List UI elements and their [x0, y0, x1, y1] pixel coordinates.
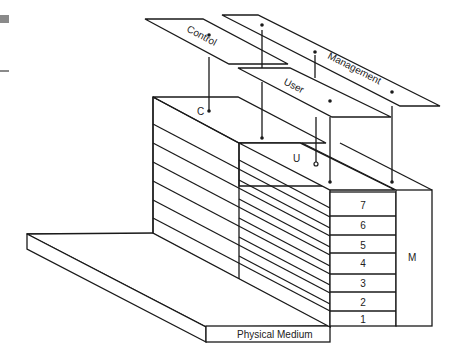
- scan-artifact-line: [0, 70, 9, 72]
- control-stack-label: C: [197, 106, 204, 117]
- physical-medium-label: Physical Medium: [237, 329, 313, 340]
- layer-3-label: 3: [360, 278, 366, 289]
- layer-5-label: 5: [360, 240, 366, 251]
- user-stack-label: U: [293, 153, 300, 164]
- layer-7-label: 7: [360, 200, 366, 211]
- layer-4-label: 4: [360, 258, 366, 269]
- scan-artifact-top: [0, 15, 9, 23]
- management-column-label: M: [408, 252, 416, 263]
- layer-6-label: 6: [360, 220, 366, 231]
- layer-1-label: 1: [360, 314, 366, 325]
- layer-2-label: 2: [360, 297, 366, 308]
- protocol-reference-model-diagram: Control Management User C U M 7 6 5 4 3 …: [0, 0, 459, 362]
